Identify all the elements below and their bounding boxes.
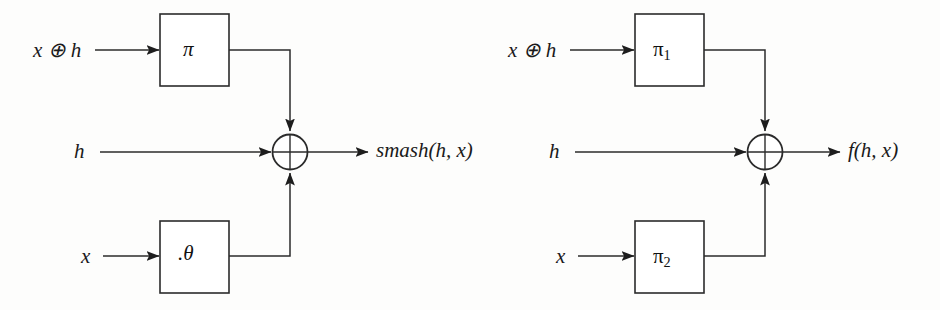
left-bottom-block-label: .θ [178,243,194,264]
left-middle-input-label: h [74,141,85,162]
left-diagram-group [95,14,368,293]
left-top-block-label: π [183,39,194,60]
left-bottom-block-rect [160,221,229,293]
right-top-block-to-xor-path [704,50,765,131]
right-bottom-block-base: π [653,244,664,268]
right-top-input-label: x ⊕ h [508,40,556,61]
left-bottom-input-label: x [81,246,90,267]
left-top-block-rect [160,14,229,86]
right-top-block-subscript: 1 [664,47,671,63]
left-bottom-block-to-xor-path [229,173,290,256]
left-top-block-to-xor-path [229,50,290,131]
right-bottom-block-label: π2 [653,246,671,269]
right-diagram-group [570,14,840,293]
right-bottom-block-subscript: 2 [664,254,671,270]
right-bottom-input-label: x [556,246,565,267]
right-middle-input-label: h [549,141,560,162]
left-output-label: smash(h, x) [376,140,473,161]
right-output-label: f(h, x) [848,140,898,161]
right-bottom-block-to-xor-path [704,173,765,256]
right-top-block-label: π1 [653,39,671,62]
right-top-block-base: π [653,37,664,61]
left-top-input-label: x ⊕ h [33,40,81,61]
diagram-canvas: x ⊕ h h x π .θ smash(h, x) x ⊕ h h x π1 … [0,0,940,310]
